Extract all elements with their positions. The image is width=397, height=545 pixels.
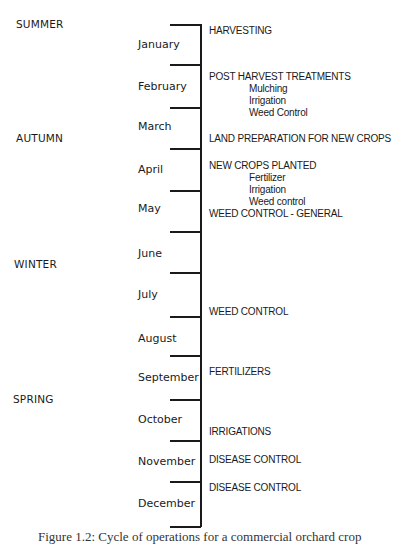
figure-caption: Figure 1.2: Cycle of operations for a co… (38, 529, 361, 545)
month-label-april: April (138, 163, 163, 176)
activity-block: POST HARVEST TREATMENTSMulchingIrrigatio… (209, 71, 351, 119)
activity-block: WEED CONTROL - GENERAL (209, 208, 343, 220)
activity-block: WEED CONTROL (209, 306, 288, 318)
activity-block: DISEASE CONTROL (209, 482, 301, 494)
activity-title: DISEASE CONTROL (209, 454, 301, 465)
activity-block: HARVESTING (209, 25, 272, 37)
month-label-december: December (138, 497, 195, 510)
month-label-august: August (138, 332, 177, 345)
activity-title: WEED CONTROL - GENERAL (209, 208, 343, 219)
activity-subitem: Fertilizer (209, 172, 316, 184)
activity-subitem: Mulching (209, 83, 351, 95)
month-divider (170, 526, 201, 528)
month-divider (170, 107, 201, 109)
month-label-may: May (138, 202, 161, 215)
month-label-february: February (138, 80, 187, 93)
month-divider (170, 24, 201, 26)
activity-subitem: Irrigation (209, 184, 316, 196)
activity-subitem: Weed control (209, 196, 316, 208)
activity-block: IRRIGATIONS (209, 426, 271, 438)
month-divider (170, 355, 201, 357)
month-label-march: March (138, 120, 172, 133)
month-divider (170, 148, 201, 150)
month-label-october: October (138, 413, 182, 426)
month-label-november: November (138, 455, 195, 468)
month-divider (170, 190, 201, 192)
activity-block: LAND PREPARATION FOR NEW CROPS (209, 133, 391, 145)
month-divider (170, 481, 201, 483)
month-divider (170, 231, 201, 233)
activity-title: IRRIGATIONS (209, 426, 271, 437)
activity-title: NEW CROPS PLANTED (209, 160, 316, 171)
season-label-winter: WINTER (14, 258, 57, 270)
activity-title: WEED CONTROL (209, 306, 288, 317)
season-label-autumn: AUTUMN (16, 132, 63, 144)
month-divider (170, 316, 201, 318)
month-divider (170, 440, 201, 442)
season-label-summer: SUMMER (16, 18, 64, 30)
month-label-july: July (138, 288, 158, 301)
month-divider (170, 64, 201, 66)
month-label-september: September (138, 371, 199, 384)
activity-title: DISEASE CONTROL (209, 482, 301, 493)
month-label-january: January (138, 38, 180, 51)
activity-title: LAND PREPARATION FOR NEW CROPS (209, 133, 391, 144)
activity-block: NEW CROPS PLANTEDFertilizerIrrigationWee… (209, 160, 316, 208)
activity-title: FERTILIZERS (209, 366, 271, 377)
activity-title: HARVESTING (209, 25, 272, 36)
activity-title: POST HARVEST TREATMENTS (209, 71, 351, 82)
timeline-axis (200, 24, 202, 527)
month-divider (170, 272, 201, 274)
activity-block: FERTILIZERS (209, 366, 271, 378)
month-divider (170, 399, 201, 401)
activity-subitem: Weed Control (209, 107, 351, 119)
season-label-spring: SPRING (13, 393, 54, 405)
activity-block: DISEASE CONTROL (209, 454, 301, 466)
activity-subitem: Irrigation (209, 95, 351, 107)
month-label-june: June (138, 247, 162, 260)
